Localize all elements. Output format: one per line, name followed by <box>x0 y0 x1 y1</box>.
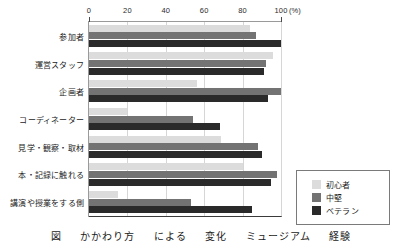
bar <box>89 60 266 67</box>
legend-item-label: 初心者 <box>326 179 351 190</box>
x-axis-tick-label: 60 <box>200 6 209 15</box>
y-axis-category-label: コーディネーター <box>0 114 84 125</box>
bar <box>89 88 281 95</box>
bar <box>89 123 220 130</box>
legend-swatch-icon <box>312 193 321 202</box>
bar <box>89 68 264 75</box>
bar <box>89 191 118 198</box>
figure-caption: 図 かかわり方 による 変化 ミュージアム 経験 <box>0 228 402 243</box>
legend-item: 初心者 <box>312 179 351 190</box>
legend: 初心者中堅ベテラン <box>296 170 390 225</box>
x-axis-tick-label: 80 <box>238 6 247 15</box>
bar <box>89 206 252 213</box>
axis-line-bottom <box>89 216 281 217</box>
y-axis-category-label: 運営スタッフ <box>0 59 84 70</box>
bar <box>89 25 250 32</box>
x-axis-tick-label: 40 <box>161 6 170 15</box>
y-axis-category-label: 参加者 <box>0 31 84 42</box>
bar <box>89 151 262 158</box>
x-axis-tick-label: 100 <box>274 6 287 15</box>
bar <box>89 171 277 178</box>
x-axis-tick-label: 0 <box>87 6 91 15</box>
y-axis-category-label: 企画者 <box>0 86 84 97</box>
bar <box>89 40 281 47</box>
bar <box>89 52 273 59</box>
y-axis-category-label: 見学・観察・取材 <box>0 142 84 153</box>
bar <box>89 143 258 150</box>
legend-item: 中堅 <box>312 192 342 203</box>
y-axis-category-label: 本・記録に触れる <box>0 169 84 180</box>
bar <box>89 32 256 39</box>
legend-item-label: 中堅 <box>326 192 342 203</box>
bar <box>89 163 243 170</box>
bar <box>89 116 193 123</box>
x-axis-tick-label: 20 <box>123 6 132 15</box>
x-axis-tick-mark <box>281 17 282 22</box>
x-axis-tick-mark <box>89 17 90 22</box>
legend-item: ベテラン <box>312 205 359 216</box>
gridline <box>204 22 205 216</box>
gridline <box>281 22 282 216</box>
bar <box>89 199 191 206</box>
y-axis-category-label: 講演や授業をする側 <box>0 197 84 208</box>
bar <box>89 80 197 87</box>
x-axis-unit-label: (%) <box>289 6 301 15</box>
bar <box>89 136 221 143</box>
legend-swatch-icon <box>312 180 321 189</box>
gridline <box>243 22 244 216</box>
bar <box>89 108 127 115</box>
legend-item-label: ベテラン <box>326 205 359 216</box>
bar <box>89 179 271 186</box>
legend-swatch-icon <box>312 206 321 215</box>
plot-area <box>89 22 281 216</box>
bar <box>89 95 268 102</box>
